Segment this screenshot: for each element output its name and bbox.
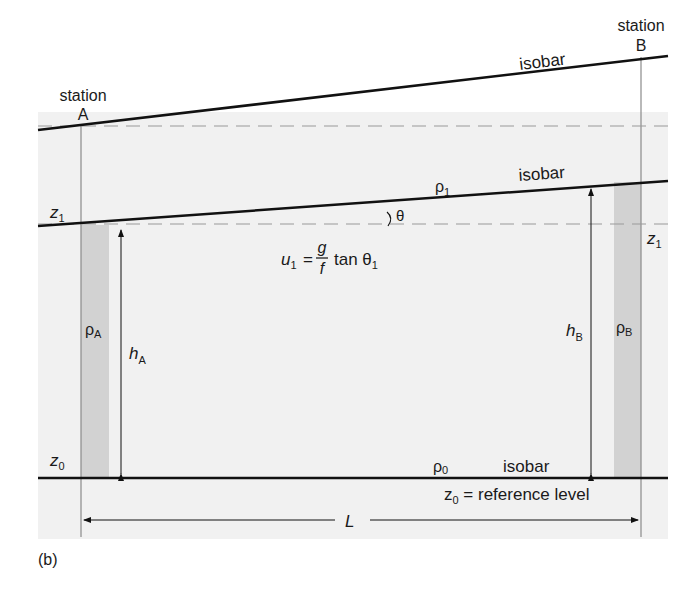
angle-theta-label: θ xyxy=(396,207,404,224)
svg-text:g: g xyxy=(318,239,327,256)
svg-text:=: = xyxy=(303,250,313,269)
svg-text:tan θ1: tan θ1 xyxy=(334,250,378,271)
isobar-bottom-label: isobar xyxy=(503,457,550,476)
station-a-letter: A xyxy=(78,106,89,123)
station-b-word: station xyxy=(617,17,664,34)
isobar-top-label: isobar xyxy=(518,50,567,74)
column-station-a xyxy=(81,225,109,478)
panel-label: (b) xyxy=(38,551,58,568)
reference-level-label: z0 = reference level xyxy=(444,485,590,506)
station-a-word: station xyxy=(59,87,106,104)
geostrophic-thermal-wind-diagram: station A station B isobar isobar isobar… xyxy=(0,0,697,604)
station-b-letter: B xyxy=(636,37,647,54)
isobar-middle-label: isobar xyxy=(518,163,566,185)
distance-label: L xyxy=(345,512,354,531)
